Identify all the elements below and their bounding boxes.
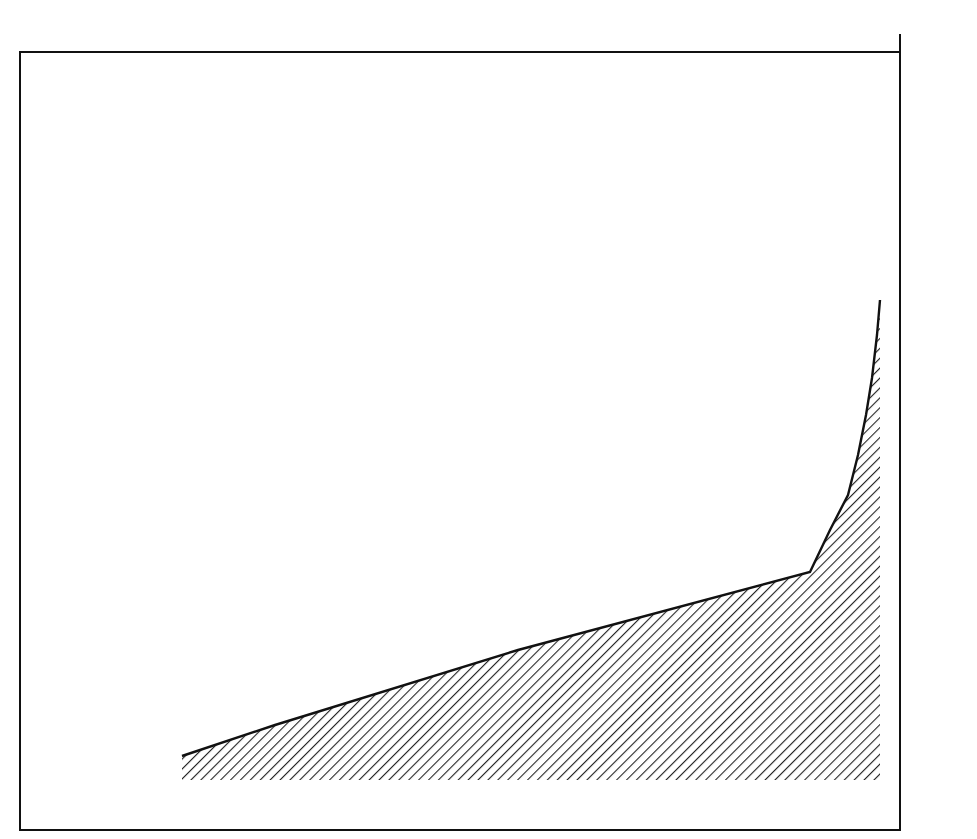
chart-svg	[0, 0, 977, 839]
hatched-survival-area	[182, 300, 880, 780]
patent-term-figure	[0, 0, 977, 839]
